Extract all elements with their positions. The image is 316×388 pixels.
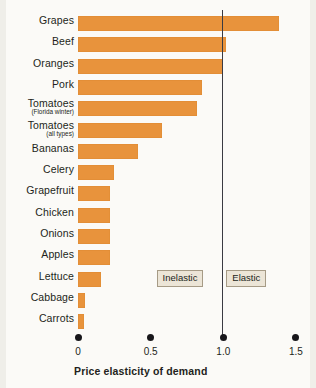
bar-category-label: Oranges [2, 58, 74, 69]
x-axis-tick-dot [220, 334, 227, 341]
x-axis-tick-label: 1.0 [208, 346, 238, 357]
bar-category-name: Grapes [2, 15, 74, 26]
bar-category-label: Tomatoes(Florida winter) [2, 98, 74, 115]
zone-label-inelastic: Inelastic [157, 270, 204, 287]
x-axis-tick-label: 0.5 [136, 346, 166, 357]
bar-category-name: Beef [2, 36, 74, 47]
bar-category-name: Bananas [2, 143, 74, 154]
bar-category-name: Tomatoes [2, 120, 74, 131]
x-axis-tick-dot [75, 334, 82, 341]
bar-category-name: Cabbage [2, 292, 74, 303]
bar-category-sublabel: (Florida winter) [2, 109, 74, 115]
bar [78, 229, 110, 244]
bar-row: Beef [0, 34, 316, 55]
bar [78, 80, 202, 95]
bar-category-label: Carrots [2, 313, 74, 324]
bar-category-label: Tomatoes(all types) [2, 120, 74, 137]
bar-category-label: Celery [2, 164, 74, 175]
bar-category-name: Celery [2, 164, 74, 175]
bar-row: Pork [0, 77, 316, 98]
chart-container: GrapesBeefOrangesPorkTomatoes(Florida wi… [0, 0, 316, 388]
bar-category-name: Grapefruit [2, 185, 74, 196]
zone-label-elastic: Elastic [226, 270, 266, 287]
bar [78, 144, 138, 159]
bar-row: Tomatoes(all types) [0, 120, 316, 141]
bar [78, 165, 114, 180]
bar-category-label: Bananas [2, 143, 74, 154]
bar-row: Tomatoes(Florida winter) [0, 98, 316, 119]
x-axis-tick-dot [147, 334, 154, 341]
bar [78, 272, 101, 287]
x-axis-tick-label: 1.5 [281, 346, 311, 357]
bar-category-label: Cabbage [2, 292, 74, 303]
bar-category-name: Chicken [2, 207, 74, 218]
x-axis-title: Price elasticity of demand [74, 365, 207, 377]
bar-category-label: Grapes [2, 15, 74, 26]
bar-category-name: Carrots [2, 313, 74, 324]
bar-row: Bananas [0, 141, 316, 162]
bar-category-label: Beef [2, 36, 74, 47]
bar [78, 101, 197, 116]
bar [78, 250, 110, 265]
bar-row: Chicken [0, 205, 316, 226]
bar-category-label: Apples [2, 249, 74, 260]
bar-row: Onions [0, 226, 316, 247]
bar [78, 314, 84, 329]
bar-category-label: Chicken [2, 207, 74, 218]
bar-row: Apples [0, 247, 316, 268]
bar [78, 293, 85, 308]
unit-elastic-reference-line [222, 10, 223, 337]
bar-row: Celery [0, 162, 316, 183]
bar [78, 123, 162, 138]
bar-category-label: Lettuce [2, 271, 74, 282]
bar-category-name: Tomatoes [2, 98, 74, 109]
bar-row: Oranges [0, 56, 316, 77]
x-axis-tick-dot [292, 334, 299, 341]
bar [78, 186, 110, 201]
bar-row: Grapefruit [0, 183, 316, 204]
x-axis-tick-label: 0 [63, 346, 93, 357]
bar-row: Cabbage [0, 290, 316, 311]
bar-category-label: Grapefruit [2, 185, 74, 196]
plot-area: GrapesBeefOrangesPorkTomatoes(Florida wi… [0, 0, 316, 388]
bar-category-name: Apples [2, 249, 74, 260]
bar-category-label: Pork [2, 79, 74, 90]
bar-row: Carrots [0, 311, 316, 332]
bar-category-name: Lettuce [2, 271, 74, 282]
bar-category-sublabel: (all types) [2, 131, 74, 137]
bar [78, 37, 226, 52]
bar-category-label: Onions [2, 228, 74, 239]
bar [78, 208, 110, 223]
bar-category-name: Onions [2, 228, 74, 239]
bar [78, 16, 279, 31]
bar [78, 59, 223, 74]
bar-row: Grapes [0, 13, 316, 34]
bar-category-name: Pork [2, 79, 74, 90]
bar-category-name: Oranges [2, 58, 74, 69]
